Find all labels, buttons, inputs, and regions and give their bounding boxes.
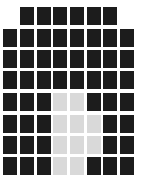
grid-cell-dark [37, 136, 51, 154]
grid-cell-dark [87, 7, 101, 25]
grid-cell-dark [3, 93, 17, 111]
grid-cell-dark [70, 29, 84, 47]
grid-cell-dark [37, 157, 51, 175]
grid-cell-dark [3, 157, 17, 175]
grid-cell-dark [120, 29, 134, 47]
grid-cell-dark [20, 136, 34, 154]
grid-cell-dark [20, 7, 34, 25]
grid-cell-dark [87, 71, 101, 89]
grid-cell-dark [103, 71, 117, 89]
grid-cell-dark [53, 29, 67, 47]
grid-cell-dark [120, 71, 134, 89]
grid-cell-light [53, 157, 67, 175]
grid-cell-dark [3, 115, 17, 133]
grid-cell-dark [20, 157, 34, 175]
grid-cell-dark [87, 50, 101, 68]
grid-cell-dark [53, 50, 67, 68]
grid-cell-light [53, 115, 67, 133]
grid-cell-dark [3, 29, 17, 47]
grid-cell-dark [120, 115, 134, 133]
grid-cell-dark [3, 71, 17, 89]
grid-cell-dark [120, 157, 134, 175]
grid-cell-dark [87, 157, 101, 175]
grid-cell-dark [70, 50, 84, 68]
grid-cell-dark [103, 50, 117, 68]
grid-cell-dark [3, 136, 17, 154]
grid-cell-dark [20, 115, 34, 133]
grid-cell-light [70, 115, 84, 133]
grid-cell-light [70, 136, 84, 154]
grid-cell-dark [53, 71, 67, 89]
pixel-grid [0, 0, 144, 185]
grid-cell-dark [120, 50, 134, 68]
grid-cell-dark [37, 7, 51, 25]
grid-cell-dark [20, 29, 34, 47]
grid-cell-dark [103, 115, 117, 133]
grid-cell-dark [87, 29, 101, 47]
grid-cell-light [87, 136, 101, 154]
grid-cell-dark [120, 136, 134, 154]
grid-cell-dark [87, 93, 101, 111]
grid-cell-dark [37, 93, 51, 111]
grid-cell-dark [3, 50, 17, 68]
grid-cell-dark [37, 115, 51, 133]
grid-cell-dark [37, 71, 51, 89]
grid-cell-dark [37, 50, 51, 68]
grid-cell-dark [103, 93, 117, 111]
grid-cell-dark [103, 157, 117, 175]
grid-cell-dark [53, 7, 67, 25]
grid-cell-dark [103, 7, 117, 25]
grid-cell-light [70, 157, 84, 175]
grid-cell-light [87, 115, 101, 133]
grid-cell-light [53, 136, 67, 154]
grid-cell-dark [70, 7, 84, 25]
grid-cell-dark [20, 50, 34, 68]
grid-cell-dark [120, 93, 134, 111]
grid-cell-dark [20, 93, 34, 111]
grid-cell-light [70, 93, 84, 111]
grid-cell-light [53, 93, 67, 111]
grid-cell-dark [103, 136, 117, 154]
grid-cell-dark [20, 71, 34, 89]
grid-cell-dark [70, 71, 84, 89]
grid-cell-dark [37, 29, 51, 47]
grid-cell-dark [103, 29, 117, 47]
